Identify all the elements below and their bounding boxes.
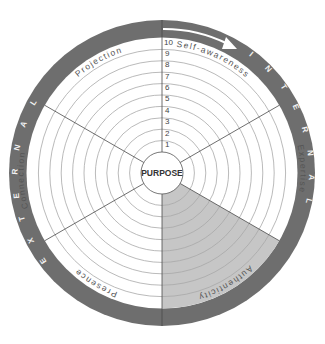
scale-number: 4 (165, 106, 170, 115)
purpose-label: PURPOSE (141, 168, 183, 178)
scale-number: 9 (165, 49, 170, 58)
scale-number: 7 (165, 72, 170, 81)
scale-number: 10 (164, 38, 173, 47)
scale-number: 8 (165, 60, 170, 69)
scale-number: 2 (165, 129, 170, 138)
scale-number: 5 (165, 94, 170, 103)
scale-number: 6 (165, 83, 170, 92)
scale-number: 1 (165, 140, 170, 149)
purpose-wheel-diagram: PURPOSE 1 2 3 4 5 6 7 8 9 10 Self-awaren… (0, 0, 325, 344)
scale-number: 3 (165, 117, 170, 126)
